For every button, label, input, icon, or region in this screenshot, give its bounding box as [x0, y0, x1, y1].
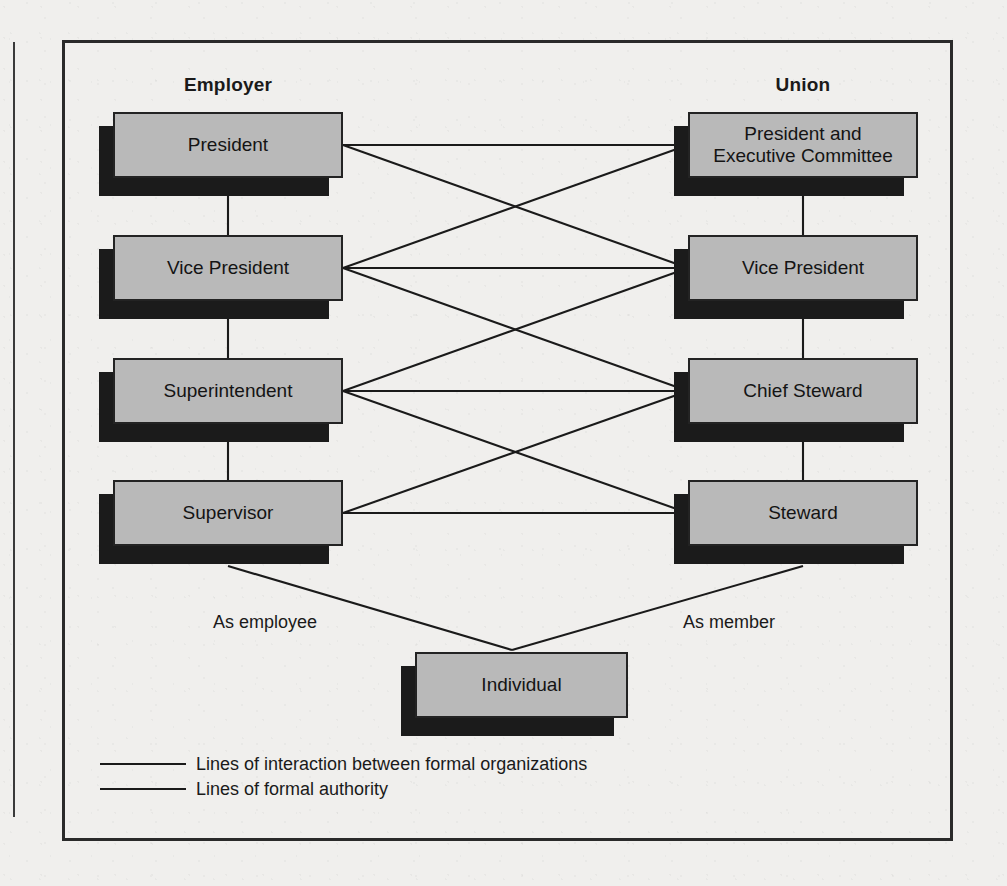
node-label: President	[188, 134, 268, 156]
node-label: Individual	[481, 674, 561, 696]
role-label-as-member: As member	[683, 612, 775, 633]
column-header-union: Union	[776, 74, 831, 96]
legend-label-interaction: Lines of interaction between formal orga…	[196, 754, 587, 775]
node-label: Vice President	[167, 257, 289, 279]
role-label-as-employee: As employee	[213, 612, 317, 633]
column-header-employer: Employer	[184, 74, 272, 96]
node-label: Superintendent	[164, 380, 293, 402]
node-face: Supervisor	[113, 480, 343, 546]
node-face: Superintendent	[113, 358, 343, 424]
interaction-line-steward-to-individual	[512, 566, 803, 650]
legend-label-authority: Lines of formal authority	[196, 779, 388, 800]
figure-page: Employer Union President Vice President …	[0, 0, 1007, 886]
node-union-chief-steward[interactable]: Chief Steward	[674, 372, 904, 442]
node-label: Steward	[768, 502, 838, 524]
node-face: President	[113, 112, 343, 178]
node-union-vice-president[interactable]: Vice President	[674, 249, 904, 319]
node-label: President and Executive Committee	[713, 123, 893, 168]
node-individual[interactable]: Individual	[401, 666, 614, 736]
node-face: Individual	[415, 652, 628, 718]
node-label-line1: President and	[713, 123, 893, 145]
node-face: Steward	[688, 480, 918, 546]
node-employer-superintendent[interactable]: Superintendent	[99, 372, 329, 442]
node-employer-supervisor[interactable]: Supervisor	[99, 494, 329, 564]
node-employer-vice-president[interactable]: Vice President	[99, 249, 329, 319]
node-union-steward[interactable]: Steward	[674, 494, 904, 564]
node-face: Vice President	[113, 235, 343, 301]
node-face: Chief Steward	[688, 358, 918, 424]
node-label: Chief Steward	[743, 380, 862, 402]
node-union-president[interactable]: President and Executive Committee	[674, 126, 904, 196]
interaction-line-supervisor-to-individual	[228, 566, 512, 650]
node-face: President and Executive Committee	[688, 112, 918, 178]
node-label: Vice President	[742, 257, 864, 279]
node-face: Vice President	[688, 235, 918, 301]
node-employer-president[interactable]: President	[99, 126, 329, 196]
node-label-line2: Executive Committee	[713, 145, 893, 167]
node-label: Supervisor	[183, 502, 274, 524]
